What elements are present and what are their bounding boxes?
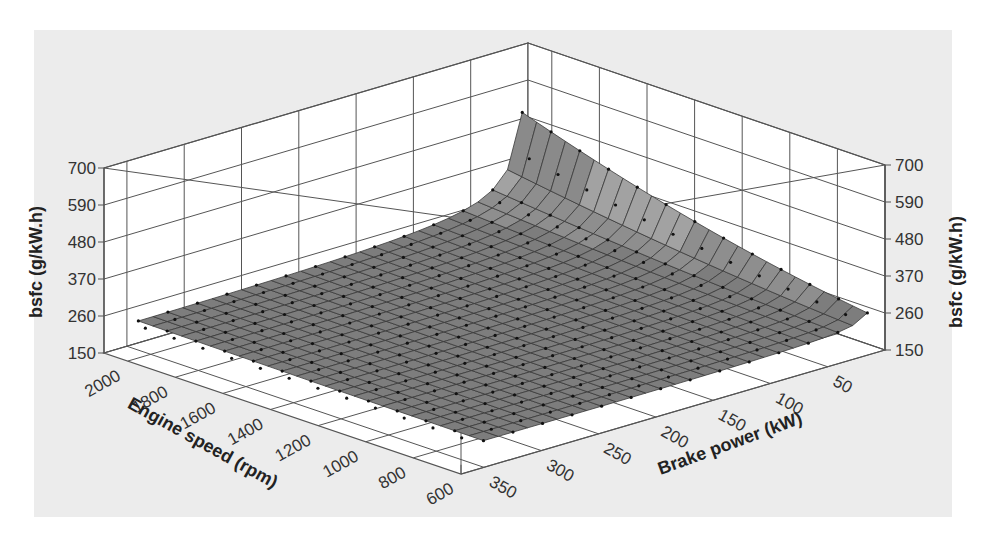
- tick-label: 370: [68, 270, 96, 289]
- tick-label: 260: [68, 307, 96, 326]
- tick-label: 1200: [272, 430, 314, 465]
- tick-label: 590: [895, 193, 923, 212]
- tick-label: 1000: [319, 447, 361, 482]
- tick-label: 150: [68, 344, 96, 363]
- z-axis-label-right: bsfc (g/kW.h): [946, 216, 966, 328]
- tick-label: 800: [375, 463, 409, 493]
- tick-label: 250: [601, 439, 635, 469]
- tick-label: 2000: [81, 366, 123, 401]
- tick-label: 600: [423, 479, 457, 509]
- tick-label: 1400: [224, 414, 266, 449]
- tick-label: 260: [895, 304, 923, 323]
- tick-label: 50: [830, 372, 856, 398]
- tick-label: 300: [543, 455, 577, 485]
- z-axis-label-left: bsfc (g/kW.h): [26, 206, 46, 318]
- tick-label: 350: [486, 472, 520, 502]
- tick-label: 480: [68, 233, 96, 252]
- tick-label: 590: [68, 196, 96, 215]
- tick-label: 480: [895, 230, 923, 249]
- tick-label: 370: [895, 267, 923, 286]
- tick-label: 150: [895, 341, 923, 360]
- tick-label: 700: [68, 159, 96, 178]
- surface-plot-3d: 1501502602603703704804805905907007002000…: [0, 0, 984, 538]
- tick-label: 700: [895, 156, 923, 175]
